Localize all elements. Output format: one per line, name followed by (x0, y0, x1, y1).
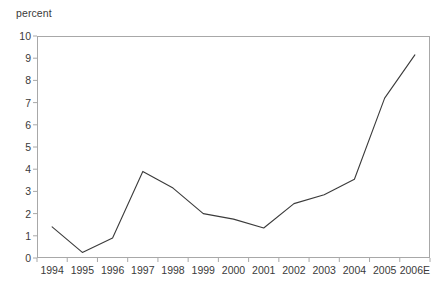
chart-canvas (0, 0, 444, 290)
y-axis-ticks (33, 36, 37, 258)
line-chart: percent 012345678910 1994199519961997199… (0, 0, 444, 290)
x-axis-ticks (37, 258, 430, 262)
data-series-line (52, 55, 415, 253)
